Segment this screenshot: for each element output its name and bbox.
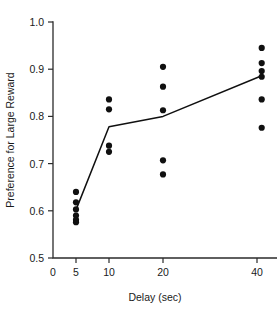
x-tick-label: 5 <box>73 266 79 278</box>
data-point-marker <box>160 84 166 90</box>
data-point-marker <box>106 96 112 102</box>
x-tick-label: 20 <box>157 266 169 278</box>
trend-line-path <box>76 76 262 210</box>
axis-ticks <box>48 22 257 263</box>
data-point-marker <box>73 206 79 212</box>
plot-axes <box>53 22 277 258</box>
plot-canvas: 0.50.60.70.80.91.005102040 Delay (sec) P… <box>0 0 277 316</box>
y-tick-label: 1.0 <box>29 16 44 28</box>
data-points <box>73 45 265 225</box>
mean-trend-line <box>76 76 262 210</box>
axis-tick-labels: 0.50.60.70.80.91.005102040 <box>29 16 263 278</box>
y-tick-label: 0.7 <box>29 158 44 170</box>
data-point-marker <box>160 64 166 70</box>
data-point-marker <box>106 106 112 112</box>
data-point-marker <box>259 125 265 131</box>
x-tick-label: 10 <box>103 266 115 278</box>
scatter-plot-figure: 0.50.60.70.80.91.005102040 Delay (sec) P… <box>0 0 277 316</box>
axis-spines <box>53 22 277 258</box>
data-point-marker <box>106 149 112 155</box>
data-point-marker <box>160 171 166 177</box>
data-point-marker <box>73 219 79 225</box>
data-point-marker <box>259 96 265 102</box>
data-point-marker <box>73 199 79 205</box>
x-tick-label: 0 <box>50 266 56 278</box>
data-point-marker <box>259 45 265 51</box>
y-tick-label: 0.8 <box>29 110 44 122</box>
x-axis-title: Delay (sec) <box>128 291 181 303</box>
y-tick-label: 0.5 <box>29 252 44 264</box>
data-point-marker <box>259 68 265 74</box>
data-point-marker <box>259 74 265 80</box>
data-point-marker <box>106 143 112 149</box>
data-point-marker <box>160 157 166 163</box>
data-point-marker <box>160 107 166 113</box>
data-point-marker <box>73 189 79 195</box>
y-tick-label: 0.6 <box>29 205 44 217</box>
x-tick-label: 40 <box>251 266 263 278</box>
y-tick-label: 0.9 <box>29 63 44 75</box>
data-point-marker <box>259 60 265 66</box>
y-axis-title: Preference for Large Reward <box>4 72 16 208</box>
